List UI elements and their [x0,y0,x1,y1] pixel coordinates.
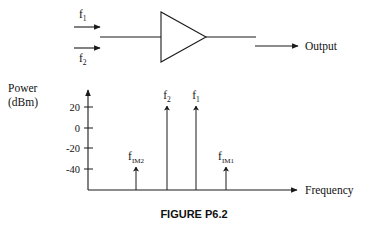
y-tick-label-20: 20 [70,102,81,113]
figure-caption: FIGURE P6.2 [160,208,227,220]
spectral-label-f-im2: fIM2 [128,150,144,165]
figure-p6-2: f1 f2 Output Power (dBm) [0,0,389,234]
input-label-f2: f2 [79,52,87,67]
y-tick-label-minus20: -20 [66,143,80,154]
y-tick-label-minus40: -40 [66,164,80,175]
spectral-label-f2: f2 [163,89,171,104]
spectrum-plot: Power (dBm) 20 0 -20 -40 Frequency fIM2 … [8,82,354,197]
y-axis-title-line1: Power [8,82,38,94]
spectral-label-f-im1: fIM1 [218,150,234,165]
output-label: Output [305,40,338,53]
y-tick-label-0: 0 [75,123,80,134]
spectral-label-f1: f1 [192,89,200,104]
y-axis-title-line2: (dBm) [8,96,38,109]
amplifier-triangle-icon [161,12,206,62]
amplifier-diagram: f1 f2 Output [74,8,338,67]
x-axis-label: Frequency [305,184,354,197]
input-label-f1: f1 [79,8,87,23]
figure-canvas: f1 f2 Output Power (dBm) [0,0,389,234]
